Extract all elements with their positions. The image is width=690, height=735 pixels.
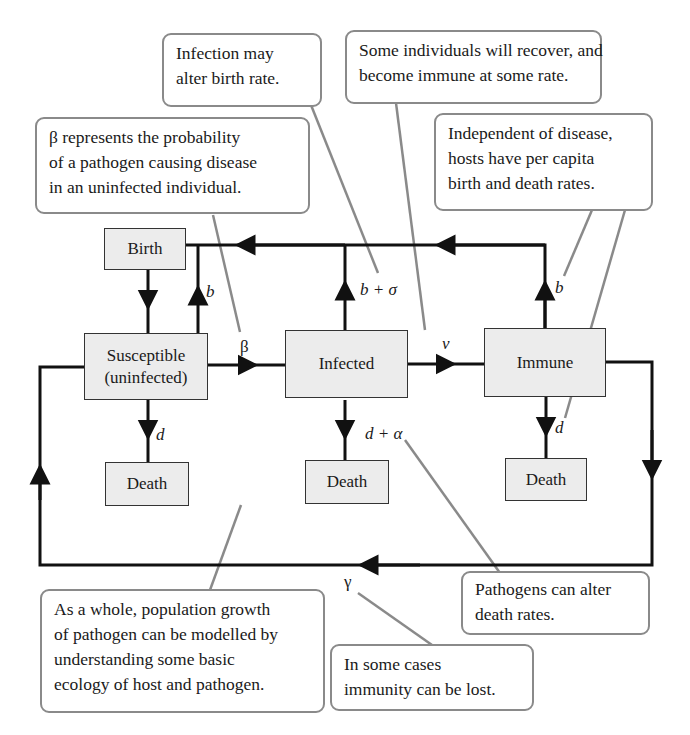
callout-line: in an uninfected individual. bbox=[49, 175, 296, 200]
label-v: v bbox=[442, 334, 450, 354]
label-s-birth: b bbox=[206, 282, 215, 302]
callout-line: β represents the probability bbox=[49, 125, 296, 150]
callout-line: In some cases bbox=[344, 652, 520, 677]
callout-line: As a whole, population growth bbox=[54, 597, 311, 622]
callout-line: alter birth rate. bbox=[176, 66, 308, 91]
node-label: Birth bbox=[128, 238, 163, 260]
node-immune: Immune bbox=[484, 328, 606, 397]
callout-line: become immune at some rate. bbox=[359, 63, 588, 88]
node-label: Death bbox=[526, 469, 567, 491]
callout-line: Some individuals will recover, and bbox=[359, 38, 588, 63]
callout-immunity-lost: In some cases immunity can be lost. bbox=[330, 644, 534, 711]
label-r-birth: b bbox=[555, 278, 564, 298]
node-death-immune: Death bbox=[505, 458, 587, 501]
callout-infection-birth: Infection may alter birth rate. bbox=[162, 33, 322, 107]
node-susceptible: Susceptible (uninfected) bbox=[84, 333, 208, 400]
callout-line: Infection may bbox=[176, 41, 308, 66]
node-infected: Infected bbox=[285, 330, 408, 398]
callout-line: Independent of disease, bbox=[448, 121, 639, 146]
label-s-death: d bbox=[156, 425, 165, 445]
callout-line: hosts have per capita bbox=[448, 146, 639, 171]
label-i-death: d + α bbox=[365, 424, 402, 444]
node-death-infected: Death bbox=[305, 460, 389, 504]
callout-line: understanding some basic bbox=[54, 647, 311, 672]
node-label: (uninfected) bbox=[104, 367, 187, 389]
callout-independent: Independent of disease, hosts have per c… bbox=[434, 113, 653, 211]
callout-line: birth and death rates. bbox=[448, 171, 639, 196]
node-label: Susceptible bbox=[107, 345, 185, 367]
callout-line: immunity can be lost. bbox=[344, 677, 520, 702]
node-label: Infected bbox=[319, 353, 375, 375]
callout-death-rates: Pathogens can alter death rates. bbox=[461, 571, 650, 635]
label-gamma: γ bbox=[344, 572, 352, 592]
label-beta: β bbox=[240, 337, 249, 357]
node-death-susceptible: Death bbox=[105, 462, 189, 506]
callout-line: of pathogen can be modelled by bbox=[54, 622, 311, 647]
node-label: Death bbox=[327, 471, 368, 493]
node-label: Immune bbox=[517, 352, 574, 374]
callout-beta: β represents the probability of a pathog… bbox=[35, 117, 310, 214]
callout-recover: Some individuals will recover, and becom… bbox=[345, 30, 602, 104]
callout-population: As a whole, population growth of pathoge… bbox=[40, 589, 325, 713]
node-birth: Birth bbox=[104, 228, 186, 270]
callout-line: Pathogens can alter bbox=[475, 577, 636, 602]
callout-line: death rates. bbox=[475, 602, 636, 627]
label-r-death: d bbox=[555, 418, 564, 438]
callout-line: of a pathogen causing disease bbox=[49, 150, 296, 175]
node-label: Death bbox=[127, 473, 168, 495]
label-i-birth: b + σ bbox=[360, 280, 397, 300]
callout-line: ecology of host and pathogen. bbox=[54, 672, 311, 697]
